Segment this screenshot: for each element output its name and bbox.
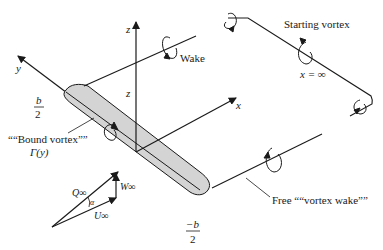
starting-vortex-tip-rotation-icon: [224, 13, 236, 32]
alpha-label: α: [90, 198, 95, 207]
svg-text:2: 2: [35, 108, 41, 120]
free-wake-rotation-icon: [264, 148, 281, 172]
gamma-label: Γ(y): [29, 146, 49, 159]
z-axis-label: z: [125, 23, 131, 35]
half-span-positive: b 2: [34, 94, 44, 120]
svg-text:b: b: [36, 94, 42, 106]
W-label: W∞: [120, 181, 135, 192]
bound-vortex-label: ““Bound vortex””: [8, 133, 88, 145]
svg-text:−b: −b: [186, 218, 199, 230]
svg-text:2: 2: [190, 233, 196, 245]
bound-vortex-leader: [68, 118, 94, 133]
y-axis-label: y: [15, 62, 21, 74]
starting-vortex-end-rotation-icon: [354, 100, 366, 114]
half-span-negative: −b 2: [186, 218, 200, 245]
free-vortex-wake-label: Free ““vortex wake””: [272, 194, 368, 206]
U-label: U∞: [94, 210, 108, 221]
z-height-label: z: [125, 87, 131, 99]
free-wake-leader: [246, 178, 270, 197]
Q-label: Q∞: [72, 187, 86, 198]
vortex-diagram: z z y x Wake Starting vortex x = ∞ b 2 −…: [0, 0, 383, 250]
x-infinity-label: x = ∞: [299, 68, 326, 80]
x-axis-label: x: [235, 99, 241, 111]
x-axis: [136, 98, 236, 152]
starting-vortex-label: Starting vortex: [284, 18, 350, 30]
starting-vortex-line: [228, 18, 372, 116]
wake-label: Wake: [180, 52, 205, 64]
trailing-vortex-right: [212, 134, 322, 188]
